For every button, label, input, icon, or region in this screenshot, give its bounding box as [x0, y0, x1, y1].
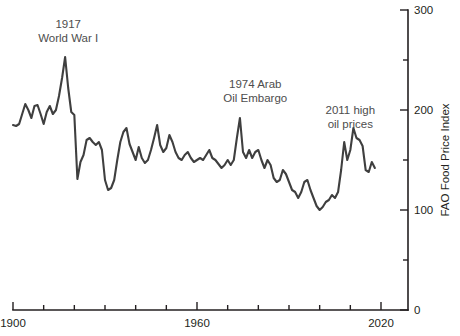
annotation-line: oil prices: [328, 118, 374, 130]
annotation-line: 1974 Arab: [229, 78, 281, 90]
annotation-line: World War I: [38, 32, 98, 44]
y-axis-title: FAO Food Price Index: [439, 103, 451, 216]
y-axis-tick-label: 100: [414, 204, 433, 216]
chart-container: 190019602020 0100200300 1917World War I1…: [0, 0, 460, 336]
y-axis-tick-label: 0: [414, 304, 420, 316]
series-path: [13, 57, 375, 210]
x-axis-tick-label: 2020: [368, 317, 394, 329]
y-axis: 0100200300: [400, 4, 433, 316]
x-axis-tick-label: 1960: [184, 317, 210, 329]
annotation-ww1: 1917World War I: [38, 18, 98, 44]
chart-annotations: 1917World War I1974 ArabOil Embargo2011 …: [38, 18, 375, 130]
data-series-fao-food-price-index: [13, 57, 375, 210]
chart-plot: 190019602020 0100200300 1917World War I1…: [0, 0, 460, 336]
y-axis-tick-label: 300: [414, 4, 433, 16]
annotation-high-oil: 2011 highoil prices: [325, 104, 375, 130]
annotation-oil-embargo: 1974 ArabOil Embargo: [223, 78, 287, 104]
annotation-line: 1917: [55, 18, 81, 30]
annotation-line: Oil Embargo: [223, 92, 287, 104]
x-axis: 190019602020: [0, 302, 408, 329]
x-axis-tick-label: 1900: [0, 317, 26, 329]
y-axis-title-text: FAO Food Price Index: [439, 103, 451, 216]
annotation-line: 2011 high: [325, 104, 375, 116]
y-axis-tick-label: 200: [414, 104, 433, 116]
